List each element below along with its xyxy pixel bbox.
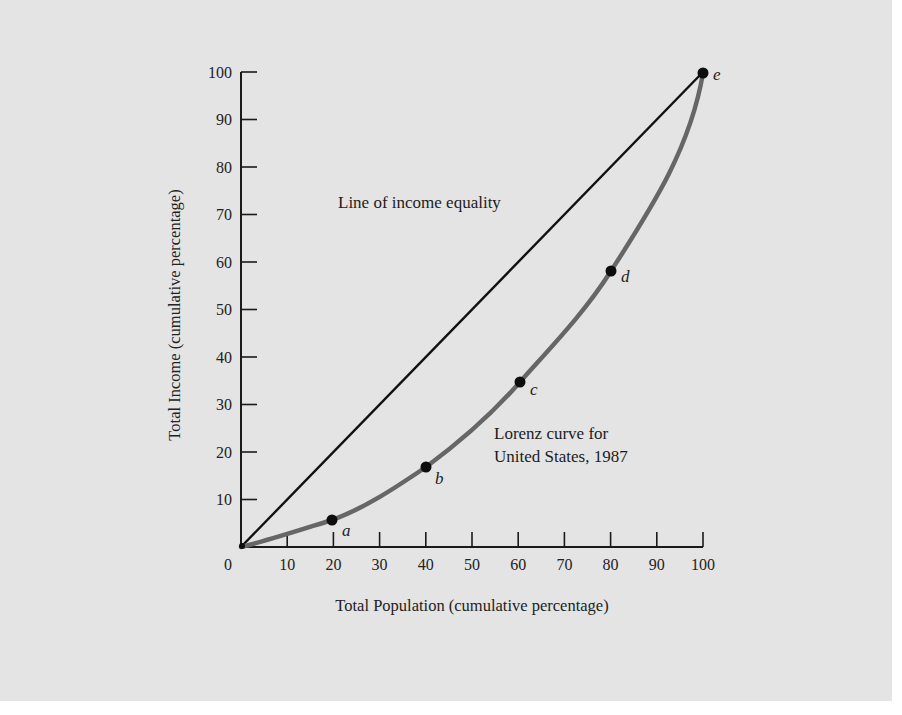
origin-marker <box>239 543 245 549</box>
point-label-d: d <box>621 267 630 286</box>
equality-line-label: Line of income equality <box>338 193 501 212</box>
x-tick-label: 10 <box>279 556 295 573</box>
x-tick-label: 100 <box>691 556 715 573</box>
x-tick-label: 20 <box>325 556 341 573</box>
y-tick-label: 40 <box>216 349 232 366</box>
y-tick-label: 80 <box>216 159 232 176</box>
point-d-marker <box>606 266 617 277</box>
x-tick-label: 30 <box>372 556 388 573</box>
y-axis-title: Total Income (cumulative percentage) <box>165 189 184 440</box>
x-tick-labels: 0 10 20 30 40 50 60 70 80 90 100 <box>224 556 715 573</box>
point-label-c: c <box>530 380 538 399</box>
point-label-a: a <box>342 521 351 540</box>
lorenz-chart: 10 20 30 40 50 60 70 80 90 100 0 10 20 3… <box>0 0 902 715</box>
point-label-b: b <box>435 469 444 488</box>
x-tick-label: 50 <box>464 556 480 573</box>
lorenz-label-line2: United States, 1987 <box>494 447 628 466</box>
x-tick-label: 60 <box>510 556 526 573</box>
lorenz-label-line1: Lorenz curve for <box>494 424 609 443</box>
point-e-marker <box>698 68 709 79</box>
y-tick-label: 100 <box>208 64 232 81</box>
x-axis-title: Total Population (cumulative percentage) <box>335 596 608 615</box>
point-b-marker <box>421 462 432 473</box>
y-ticks <box>241 72 257 500</box>
x-tick-label: 70 <box>556 556 572 573</box>
y-tick-label: 90 <box>216 111 232 128</box>
x-tick-label: 40 <box>418 556 434 573</box>
origin-label: 0 <box>224 556 232 573</box>
y-tick-labels: 10 20 30 40 50 60 70 80 90 100 <box>208 64 232 509</box>
equality-line <box>241 72 703 547</box>
y-tick-label: 20 <box>216 444 232 461</box>
point-a-marker <box>327 515 338 526</box>
y-tick-label: 70 <box>216 206 232 223</box>
x-tick-label: 90 <box>649 556 665 573</box>
x-tick-label: 80 <box>603 556 619 573</box>
y-tick-label: 60 <box>216 254 232 271</box>
y-tick-label: 50 <box>216 301 232 318</box>
point-c-marker <box>515 377 526 388</box>
y-tick-label: 30 <box>216 396 232 413</box>
y-tick-label: 10 <box>216 491 232 508</box>
point-label-e: e <box>713 65 721 84</box>
